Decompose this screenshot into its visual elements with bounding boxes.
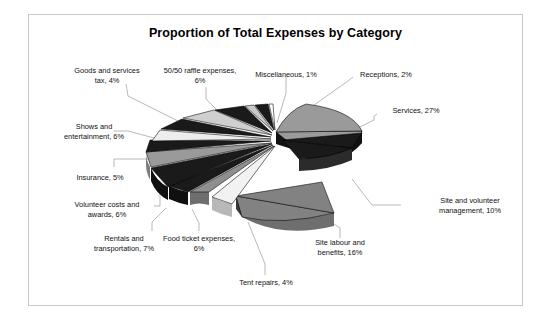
slice-label-site-and-volunteer-management: Site and volunteer management, 10%	[422, 196, 518, 215]
slice-label-insurance: Insurance, 5%	[58, 173, 142, 183]
slice-label-goods-and-services-tax: Goods and services tax, 4%	[58, 66, 156, 85]
slice-label-shows-and-entertainment: Shows and entertainment, 6%	[46, 122, 142, 141]
slice-label-services: Services, 27%	[376, 106, 456, 116]
chart-frame: Proportion of Total Expenses by Category	[28, 14, 523, 306]
slice-label-rentals-and-transportation: Rentals and transportation, 7%	[80, 234, 168, 253]
slice-label-miscellaneous: Miscellaneous, 1%	[240, 70, 332, 80]
slice-label-site-labour-and-benefits: Site labour and benefits, 16%	[297, 238, 383, 257]
slice-label-volunteer-costs-and-awards: Volunteer costs and awards, 6%	[56, 200, 158, 219]
slice-label-raffle-expenses: 50/50 raffle expenses, 6%	[148, 66, 252, 85]
slice-label-receptions: Receptions, 2%	[344, 70, 428, 80]
page-title: Proportion of Total Expenses by Category	[29, 26, 522, 40]
slice-label-tent-repairs: Tent repairs, 4%	[218, 278, 314, 288]
